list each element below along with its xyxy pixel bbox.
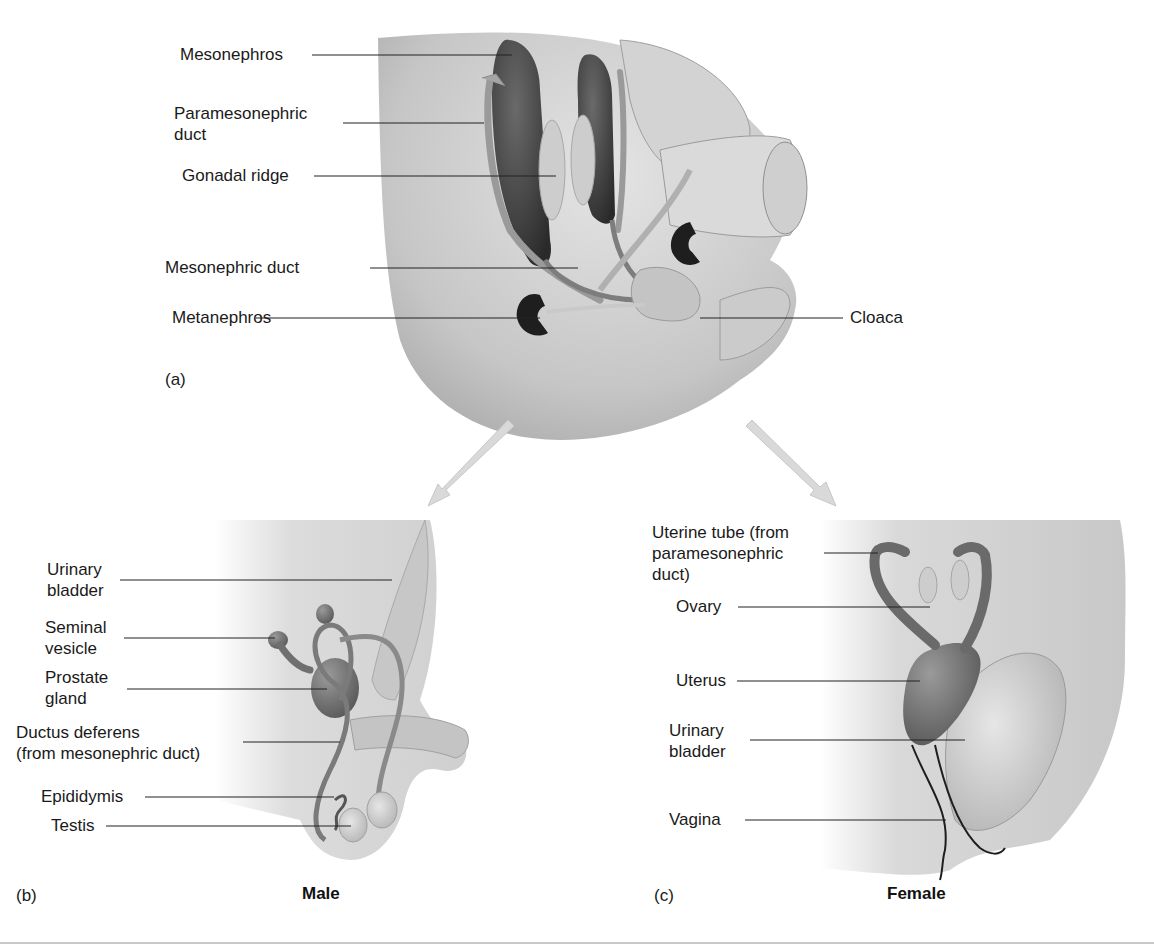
label-male-urinary-bladder: Urinary bladder [47, 559, 104, 601]
female-illustration [820, 520, 1126, 880]
label-uterine-tube: Uterine tube (from paramesonephric duct) [652, 522, 789, 585]
label-ductus-deferens: Ductus deferens (from mesonephric duct) [16, 722, 200, 764]
label-epididymis: Epididymis [41, 786, 123, 807]
label-testis: Testis [51, 815, 94, 836]
caption-female: Female [887, 884, 946, 904]
arrow-to-female [746, 420, 836, 506]
figure-stage: Mesonephros Paramesonephric duct Gonadal… [0, 0, 1154, 952]
caption-male: Male [302, 884, 340, 904]
label-paramesonephric-duct: Paramesonephric duct [174, 103, 307, 145]
label-cloaca: Cloaca [850, 307, 903, 328]
label-ovary: Ovary [676, 596, 721, 617]
label-uterus: Uterus [676, 670, 726, 691]
panel-letter-a: (a) [165, 370, 186, 390]
label-seminal-vesicle: Seminal vesicle [45, 617, 106, 659]
label-female-urinary-bladder: Urinary bladder [669, 720, 726, 762]
arrow-to-male [428, 420, 514, 506]
panel-letter-b: (b) [16, 886, 37, 906]
bottom-divider [0, 942, 1154, 944]
panel-letter-c: (c) [654, 886, 674, 906]
label-metanephros: Metanephros [172, 307, 271, 328]
label-vagina: Vagina [669, 809, 721, 830]
label-mesonephros: Mesonephros [180, 44, 283, 65]
label-prostate-gland: Prostate gland [45, 667, 108, 709]
label-mesonephric-duct: Mesonephric duct [165, 257, 299, 278]
male-illustration [215, 520, 468, 860]
label-gonadal-ridge: Gonadal ridge [182, 165, 289, 186]
embryo-illustration [378, 32, 807, 440]
